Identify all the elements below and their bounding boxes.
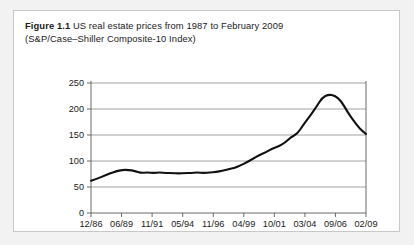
figure-caption-line1: US real estate prices from 1987 to Febru…: [73, 20, 283, 31]
x-tick-label: 11/91: [141, 219, 163, 229]
y-tick-label: 200: [69, 104, 84, 114]
figure-caption-line2: (S&P/Case–Shiller Composite-10 Index): [25, 33, 196, 44]
x-axis: [91, 213, 366, 217]
y-tick-label: 100: [69, 156, 84, 166]
figure-number: Figure 1.1: [25, 20, 70, 31]
line-chart: 050100150200250 12/8606/8911/9105/9411/9…: [14, 59, 400, 232]
x-tick-label: 03/04: [293, 219, 316, 229]
x-tick-labels: 12/8606/8911/9105/9411/9604/9910/0103/04…: [80, 219, 378, 229]
x-tick-label: 05/94: [171, 219, 194, 229]
figure-container: Figure 1.1 US real estate prices from 19…: [13, 10, 400, 232]
y-tick-label: 250: [69, 78, 84, 88]
series-line: [91, 95, 366, 181]
y-tick-label: 0: [79, 208, 84, 218]
y-tick-label: 50: [74, 182, 84, 192]
x-tick-label: 10/01: [263, 219, 286, 229]
data-series-case-shiller: [91, 95, 366, 181]
x-tick-label: 12/86: [80, 219, 103, 229]
y-axis: [87, 81, 366, 213]
x-tick-label: 11/96: [202, 219, 224, 229]
chart-svg: 050100150200250 12/8606/8911/9105/9411/9…: [14, 59, 400, 232]
figure-screenshot: Figure 1.1 US real estate prices from 19…: [0, 0, 414, 245]
x-tick-label: 09/06: [324, 219, 347, 229]
figure-caption: Figure 1.1 US real estate prices from 19…: [25, 19, 385, 45]
x-tick-label: 04/99: [232, 219, 255, 229]
y-tick-labels: 050100150200250: [69, 78, 84, 218]
x-tick-label: 02/09: [355, 219, 378, 229]
y-tick-label: 150: [69, 130, 84, 140]
x-tick-label: 06/89: [110, 219, 133, 229]
